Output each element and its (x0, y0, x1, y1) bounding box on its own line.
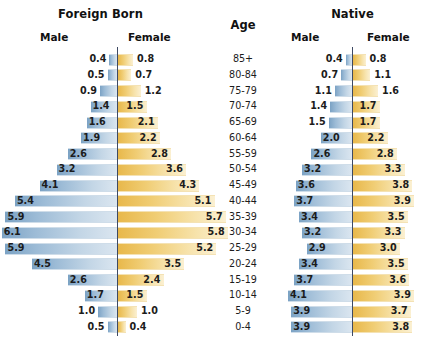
value-label-male: 3.7 (296, 194, 313, 207)
subheader-native-female: Female (367, 31, 410, 43)
panel-native: Native Male Female 0.40.80.71.11.11.61.4… (281, 0, 424, 338)
bar-female (353, 69, 370, 81)
bar-female (118, 69, 131, 81)
pyramid-row: 2.62.4 (0, 272, 205, 288)
pyramid-row: 1.71.5 (0, 287, 205, 303)
panel-title-foreign-born: Foreign Born (0, 7, 203, 21)
value-label-female: 1.5 (126, 288, 143, 301)
value-label-female: 1.7 (360, 99, 377, 112)
value-label-female: 0.7 (135, 68, 152, 81)
pyramid-row: 3.73.9 (281, 193, 424, 209)
bar-male (98, 306, 117, 318)
pyramid-row: 1.51.7 (281, 114, 424, 130)
pyramid-row: 1.11.6 (281, 83, 424, 99)
value-label-male: 3.4 (301, 257, 318, 270)
pyramid-row: 3.63.8 (281, 177, 424, 193)
age-group-label: 70-74 (205, 98, 281, 114)
value-label-female: 1.0 (141, 304, 158, 317)
age-group-label: 80-84 (205, 67, 281, 83)
pyramid-row: 0.71.1 (281, 67, 424, 83)
pyramid-row: 3.73.6 (281, 272, 424, 288)
pyramid-row: 3.43.5 (281, 256, 424, 272)
age-group-label: 45-49 (205, 177, 281, 193)
pyramid-row: 5.45.1 (0, 193, 205, 209)
population-pyramid-chart: Foreign Born Male Female 0.40.80.50.70.9… (0, 0, 424, 338)
bar-male (108, 69, 117, 81)
value-label-male: 5.9 (7, 241, 24, 254)
value-label-female: 1.2 (145, 84, 162, 97)
value-label-male: 0.9 (76, 84, 97, 97)
bar-male (346, 54, 352, 66)
value-label-male: 1.0 (74, 304, 95, 317)
pyramid-row: 0.40.8 (281, 51, 424, 67)
pyramid-row: 3.93.7 (281, 303, 424, 319)
bar-male (100, 85, 117, 97)
value-label-female: 2.8 (151, 147, 168, 160)
pyramid-row: 1.41.7 (281, 98, 424, 114)
pyramid-row: 2.02.2 (281, 130, 424, 146)
value-label-female: 3.6 (389, 273, 406, 286)
value-label-female: 3.3 (384, 225, 401, 238)
age-label-list: 85+80-8475-7970-7465-6960-6455-5950-5445… (205, 51, 281, 335)
pyramid-row: 5.95.2 (0, 240, 205, 256)
value-label-female: 2.2 (367, 131, 384, 144)
value-label-female: 3.5 (164, 257, 181, 270)
bar-rows-foreign: 0.40.80.50.70.91.21.41.51.62.11.92.22.62… (0, 51, 205, 335)
value-label-male: 3.7 (296, 273, 313, 286)
value-label-male: 2.9 (309, 241, 326, 254)
value-label-male: 2.6 (70, 273, 87, 286)
value-label-male: 3.2 (304, 225, 321, 238)
value-label-male: 4.1 (290, 288, 307, 301)
value-label-male: 1.4 (306, 99, 327, 112)
value-label-male: 2.6 (313, 147, 330, 160)
age-group-label: 5-9 (205, 303, 281, 319)
value-label-female: 1.6 (382, 84, 399, 97)
pyramid-row: 3.43.5 (281, 209, 424, 225)
value-label-male: 0.5 (84, 68, 105, 81)
value-label-male: 0.7 (317, 68, 338, 81)
age-group-label: 40-44 (205, 193, 281, 209)
value-label-female: 3.8 (392, 178, 409, 191)
age-group-label: 50-54 (205, 161, 281, 177)
pyramid-row: 3.23.6 (0, 161, 205, 177)
subheader-foreign-male: Male (40, 31, 68, 43)
value-label-male: 1.4 (93, 99, 110, 112)
bar-male (341, 69, 352, 81)
value-label-female: 1.1 (374, 68, 391, 81)
column-header-age: Age (205, 18, 281, 32)
pyramid-row: 6.15.8 (0, 224, 205, 240)
value-label-male: 6.1 (4, 225, 21, 238)
value-label-male: 3.6 (298, 178, 315, 191)
pyramid-row: 2.93.0 (281, 240, 424, 256)
value-label-male: 3.2 (304, 162, 321, 175)
value-label-female: 2.4 (143, 273, 160, 286)
pyramid-row: 2.62.8 (0, 146, 205, 162)
age-group-label: 20-24 (205, 256, 281, 272)
age-group-label: 35-39 (205, 209, 281, 225)
value-label-male: 1.6 (89, 115, 106, 128)
value-label-female: 3.5 (388, 257, 405, 270)
value-label-male: 0.5 (84, 320, 105, 333)
value-label-female: 3.9 (394, 194, 411, 207)
panel-age-labels: Age 85+80-8475-7970-7465-6960-6455-5950-… (205, 0, 281, 338)
value-label-female: 3.7 (391, 304, 408, 317)
value-label-female: 3.8 (392, 320, 409, 333)
value-label-male: 1.9 (83, 131, 100, 144)
bar-female (118, 54, 133, 66)
age-group-label: 65-69 (205, 114, 281, 130)
bar-male (329, 117, 352, 129)
age-group-label: 85+ (205, 51, 281, 67)
value-label-male: 1.7 (87, 288, 104, 301)
age-group-label: 55-59 (205, 146, 281, 162)
value-label-male: 3.9 (293, 320, 310, 333)
pyramid-row: 3.23.3 (281, 224, 424, 240)
value-label-male: 0.4 (322, 52, 343, 65)
bar-female (118, 321, 126, 333)
bar-male (335, 85, 352, 97)
value-label-male: 3.9 (293, 304, 310, 317)
pyramid-row: 1.01.0 (0, 303, 205, 319)
value-label-female: 0.4 (130, 320, 147, 333)
value-label-female: 4.3 (179, 178, 196, 191)
value-label-male: 1.5 (305, 115, 326, 128)
value-label-female: 1.5 (126, 99, 143, 112)
